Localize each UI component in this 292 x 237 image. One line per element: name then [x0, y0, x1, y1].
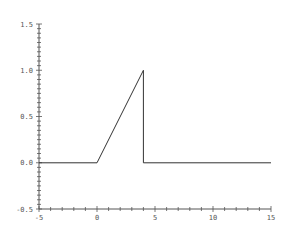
x-axis-ticks: -5051015 — [35, 206, 275, 222]
y-tick-label: 0.0 — [20, 159, 33, 167]
x-tick-label: 0 — [95, 214, 99, 222]
y-tick-label: 1.0 — [20, 67, 33, 75]
x-tick-label: 15 — [267, 214, 275, 222]
x-tick-label: 10 — [209, 214, 217, 222]
chart: -0.50.00.51.01.5 -5051015 — [0, 0, 292, 237]
x-tick-label: 5 — [153, 214, 157, 222]
y-tick-label: -0.5 — [16, 206, 33, 214]
y-tick-label: 0.5 — [20, 113, 33, 121]
y-tick-label: 1.5 — [20, 21, 33, 29]
axes — [39, 24, 271, 209]
y-axis-ticks: -0.50.00.51.01.5 — [16, 21, 42, 214]
data-line — [39, 70, 271, 163]
x-tick-label: -5 — [35, 214, 43, 222]
